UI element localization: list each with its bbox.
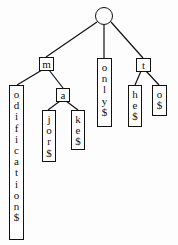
leaf-label: only$	[102, 62, 108, 118]
leaf-char: $	[14, 212, 20, 223]
suffix-trie-diagram: m odification$ a jor$ ke$ only$ t he$ o$	[0, 0, 178, 245]
edge-t-o	[146, 71, 159, 85]
leaf-ke: ke$	[71, 110, 85, 150]
leaf-char: $	[132, 111, 138, 122]
edge-m-odification	[17, 70, 42, 85]
node-label: a	[61, 89, 66, 101]
leaf-char: $	[46, 148, 52, 159]
leaf-char: t	[14, 167, 20, 178]
root-node-circle	[95, 7, 113, 25]
edge-root-m	[46, 22, 97, 57]
leaf-char: r	[46, 136, 52, 147]
node-m: m	[39, 57, 54, 71]
edge-t-he	[135, 71, 141, 85]
leaf-o: o$	[152, 85, 167, 116]
edge-root-t	[111, 22, 143, 58]
edge-a-jor	[48, 101, 60, 110]
leaf-char: i	[14, 111, 20, 122]
leaf-char: $	[75, 136, 81, 147]
node-t: t	[136, 58, 151, 72]
leaf-char: l	[102, 84, 108, 95]
node-label: m	[42, 58, 51, 70]
leaf-he: he$	[128, 85, 142, 127]
leaf-char: $	[102, 107, 108, 118]
leaf-jor: jor$	[42, 110, 56, 162]
leaf-label: o$	[157, 89, 163, 111]
leaf-label: he$	[132, 89, 138, 123]
leaf-label: odification$	[14, 89, 20, 223]
leaf-odification: odification$	[9, 85, 24, 240]
leaf-label: ke$	[75, 114, 81, 148]
node-a: a	[56, 88, 70, 102]
edge-m-a	[49, 70, 63, 88]
node-label: t	[142, 59, 145, 71]
leaf-only: only$	[97, 58, 112, 127]
edge-a-ke	[66, 101, 78, 110]
leaf-label: jor$	[46, 114, 52, 159]
leaf-char: $	[157, 100, 163, 111]
tree-edges	[0, 0, 178, 245]
